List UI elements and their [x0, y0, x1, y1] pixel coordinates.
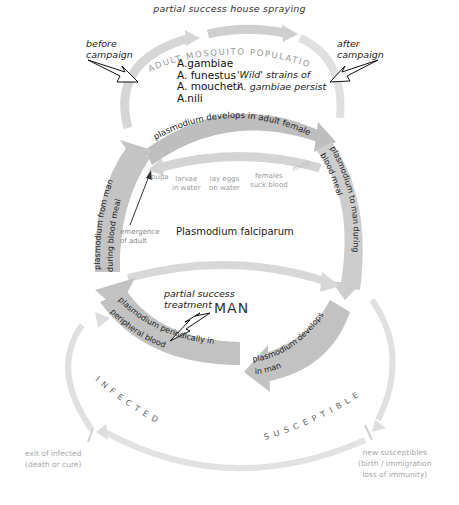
females-label: females suck blood: [250, 172, 288, 189]
after-campaign-line: campaign: [337, 49, 384, 60]
wild-strains-line: A. gambiae persist: [237, 81, 326, 93]
larvae-label: larvae in water: [172, 175, 201, 192]
new-susceptibles-line: (birth / immigration: [358, 458, 431, 469]
wild-strains-line: 'Wild' strains of: [237, 69, 326, 81]
before-campaign-line: before: [86, 38, 133, 49]
susceptible-label: SUSCEPTIBLE: [263, 388, 364, 442]
wild-strains-note: 'Wild' strains of A. gambiae persist: [237, 69, 326, 92]
house-spraying-label: partial success house spraying: [0, 3, 459, 14]
new-susceptibles-line: loss of immunity): [358, 469, 431, 480]
females-line: suck blood: [250, 181, 288, 190]
before-campaign-label: before campaign: [86, 38, 133, 60]
lay-eggs-line: lay eggs: [209, 175, 240, 184]
larvae-line: larvae: [172, 175, 201, 184]
after-campaign-label: after campaign: [337, 38, 384, 60]
malaria-cycle-diagram: ADULT MOSQUITO POPULATION plasmodium dev…: [0, 0, 459, 505]
after-campaign-line: after: [337, 38, 384, 49]
plasmodium-falciparum-label: Plasmodium falciparum: [176, 226, 294, 237]
emergence-label: emergence of adult: [120, 228, 160, 245]
females-line: females: [250, 172, 288, 181]
exit-infected-line: exit of infected: [25, 448, 81, 459]
species-list: A.gambiae A. funestus A. moucheti A.nili: [177, 58, 240, 104]
arrow-develops-in-man: [244, 300, 350, 392]
man-label: MAN: [214, 300, 249, 316]
emergence-line: emergence: [120, 228, 160, 237]
species-item: A.gambiae: [177, 58, 240, 70]
larvae-line: in water: [172, 184, 201, 193]
species-item: A. moucheti: [177, 81, 240, 93]
lay-eggs-line: on water: [209, 184, 240, 193]
lay-eggs-label: lay eggs on water: [209, 175, 240, 192]
pupa-label: pupa: [151, 173, 169, 182]
exit-infected-label: exit of infected (death or cure): [25, 448, 81, 470]
species-item: A.nili: [177, 93, 240, 105]
new-susceptibles-line: new susceptibles: [358, 447, 431, 458]
infected-label: INFECTED: [94, 375, 164, 427]
treatment-line: partial success: [164, 289, 235, 300]
before-campaign-line: campaign: [86, 49, 133, 60]
exit-infected-line: (death or cure): [25, 459, 81, 470]
new-susceptibles-label: new susceptibles (birth / immigration lo…: [358, 447, 431, 480]
emergence-line: of adult: [120, 237, 160, 246]
